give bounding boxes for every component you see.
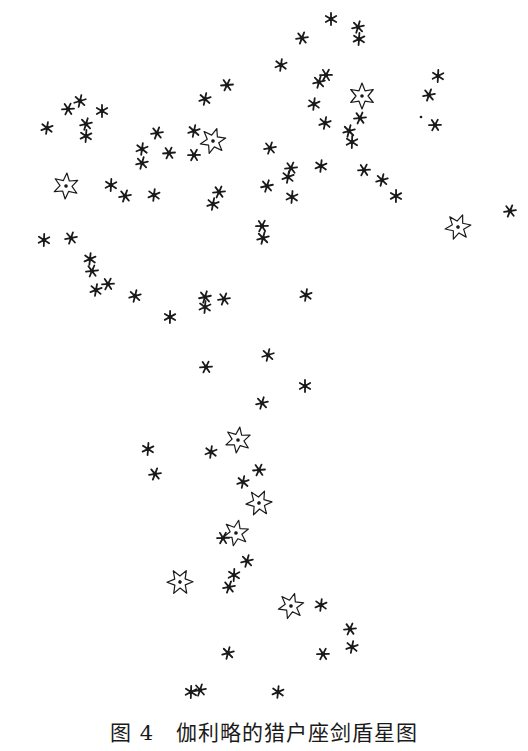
small-star-icon <box>252 462 266 477</box>
small-star-icon <box>255 396 268 411</box>
large-star-icon <box>351 83 374 109</box>
small-star-icon <box>118 189 132 204</box>
small-star-icon <box>326 13 336 25</box>
small-star-icon <box>351 20 364 35</box>
small-star-icon <box>228 569 239 582</box>
small-star-icon <box>422 88 436 103</box>
small-star-icon <box>286 191 297 204</box>
small-star-icon <box>315 598 327 611</box>
small-star-icon <box>256 231 269 245</box>
small-star-icon <box>162 145 176 160</box>
faint-dots-layer <box>420 116 423 119</box>
small-star-icon <box>376 173 389 187</box>
small-star-icon <box>97 105 107 117</box>
figure-title: 伽利略的猎户座剑盾星图 <box>176 721 418 745</box>
large-star-icon <box>225 426 251 455</box>
small-star-icon <box>80 130 91 143</box>
small-star-icon <box>300 288 312 301</box>
small-star-icon <box>74 94 87 108</box>
small-star-icon <box>262 348 275 362</box>
small-star-icon <box>295 31 309 46</box>
small-star-icon <box>315 159 327 172</box>
small-star-icon <box>187 147 202 163</box>
small-star-icon <box>199 359 214 374</box>
small-star-icon <box>255 218 270 233</box>
large-star-icon <box>443 211 473 243</box>
small-star-icon <box>101 276 116 291</box>
small-star-icon <box>135 156 148 170</box>
large-star-icon <box>54 172 78 200</box>
small-star-icon <box>129 289 142 303</box>
small-star-icon <box>260 179 274 194</box>
small-star-icon <box>237 475 250 489</box>
small-star-icon <box>39 234 50 246</box>
small-star-icon <box>240 554 253 568</box>
large-star-icon <box>277 590 306 621</box>
small-star-icon <box>347 136 358 148</box>
small-star-icon <box>308 97 320 110</box>
figure-caption: 图 4伽利略的猎户座剑盾星图 <box>0 716 528 746</box>
small-star-icon <box>353 110 367 125</box>
small-star-icon <box>357 162 372 177</box>
small-star-icon <box>217 291 231 306</box>
small-star-icon <box>90 283 102 297</box>
large-stars-layer <box>54 83 473 622</box>
small-star-icon <box>188 124 201 138</box>
small-star-icon <box>142 443 153 456</box>
small-star-icon <box>263 141 277 156</box>
large-star-icon <box>198 125 227 156</box>
small-star-icon <box>85 263 99 278</box>
small-star-icon <box>220 77 234 92</box>
small-star-icon <box>353 33 364 46</box>
star-chart <box>0 0 528 700</box>
small-star-icon <box>64 231 78 246</box>
large-star-icon <box>164 565 196 599</box>
small-star-icon <box>284 160 298 175</box>
small-star-icon <box>148 467 162 482</box>
small-star-icon <box>207 197 219 211</box>
faint-dot-icon <box>420 116 423 119</box>
small-star-icon <box>61 101 76 116</box>
small-star-icon <box>319 67 334 83</box>
small-star-icon <box>316 646 331 661</box>
small-star-icon <box>343 621 357 636</box>
small-star-icon <box>199 301 210 314</box>
small-star-icon <box>150 126 164 141</box>
small-star-icon <box>319 116 331 130</box>
small-star-icon <box>432 70 443 83</box>
small-star-icon <box>221 646 234 660</box>
small-star-icon <box>165 311 176 323</box>
small-star-icon <box>300 380 310 392</box>
small-star-icon <box>282 170 294 184</box>
small-star-icon <box>186 686 197 698</box>
small-stars-layer <box>39 13 517 699</box>
small-star-icon <box>272 685 284 698</box>
small-star-icon <box>312 75 325 89</box>
small-star-icon <box>346 640 358 654</box>
small-star-icon <box>205 445 217 458</box>
small-star-icon <box>428 117 443 132</box>
small-star-icon <box>79 117 92 132</box>
figure-number: 图 4 <box>110 721 154 745</box>
small-star-icon <box>136 142 148 155</box>
large-star-icon <box>243 486 274 519</box>
small-star-icon <box>503 203 517 218</box>
small-star-icon <box>105 179 116 192</box>
small-star-icon <box>342 124 355 138</box>
small-star-icon <box>148 188 160 201</box>
small-star-icon <box>84 252 96 265</box>
small-star-icon <box>275 58 287 71</box>
small-star-icon <box>199 92 212 106</box>
small-star-icon <box>391 190 402 202</box>
small-star-icon <box>41 121 53 134</box>
